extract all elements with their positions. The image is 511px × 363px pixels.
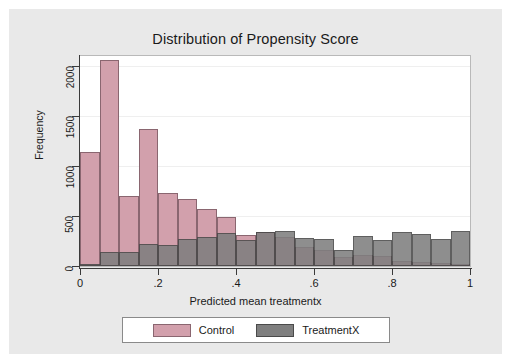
bar-treatmentx-11 xyxy=(295,238,315,267)
x-tick-label: 0 xyxy=(77,277,83,289)
x-tick-label: .8 xyxy=(387,277,396,289)
bar-treatmentx-12 xyxy=(314,239,334,267)
chart-title: Distribution of Propensity Score xyxy=(9,31,502,47)
legend-label-treatmentx: TreatmentX xyxy=(302,324,359,336)
pink-swatch-icon xyxy=(153,324,191,337)
bar-treatmentx-16 xyxy=(392,232,412,266)
bar-treatmentx-4 xyxy=(158,245,178,266)
x-tick-label: 1 xyxy=(467,277,473,289)
y-tick-label: 1500 xyxy=(65,116,76,138)
gridline xyxy=(80,116,470,117)
y-tick-label: 0 xyxy=(65,266,76,272)
legend-item-control[interactable]: Control xyxy=(153,324,234,337)
bar-treatmentx-3 xyxy=(139,244,159,266)
bar-treatmentx-2 xyxy=(119,252,139,267)
x-tick-label: .4 xyxy=(231,277,240,289)
legend-item-treatmentx[interactable]: TreatmentX xyxy=(256,324,359,337)
bars-container xyxy=(80,56,470,266)
gridline xyxy=(80,66,470,67)
x-axis-line xyxy=(79,268,472,269)
bar-treatmentx-8 xyxy=(236,240,256,266)
x-tick xyxy=(80,268,81,275)
x-tick-label: .6 xyxy=(309,277,318,289)
x-tick xyxy=(392,268,393,275)
y-tick-label: 500 xyxy=(65,216,76,233)
bar-treatmentx-13 xyxy=(334,250,354,267)
bar-treatmentx-14 xyxy=(353,236,373,267)
plot-area xyxy=(79,55,471,267)
bar-treatmentx-7 xyxy=(217,233,237,266)
x-tick xyxy=(470,268,471,275)
bar-treatmentx-0 xyxy=(80,264,100,266)
x-tick xyxy=(314,268,315,275)
bar-treatmentx-5 xyxy=(178,239,198,267)
bar-treatmentx-19 xyxy=(451,231,471,266)
bar-treatmentx-15 xyxy=(373,240,393,267)
x-axis-title: Predicted mean treatmentx xyxy=(9,295,502,307)
bar-treatmentx-1 xyxy=(100,252,120,267)
y-tick-label: 2000 xyxy=(65,66,76,88)
bar-treatmentx-6 xyxy=(197,237,217,267)
bar-treatmentx-17 xyxy=(412,234,432,267)
bar-treatmentx-9 xyxy=(256,232,276,266)
bar-treatmentx-18 xyxy=(431,239,451,267)
figure-canvas: Distribution of Propensity Score 0500100… xyxy=(9,9,502,354)
y-tick-label: 1000 xyxy=(65,166,76,188)
x-tick xyxy=(158,268,159,275)
y-axis-title: Frequency xyxy=(33,110,45,160)
y-axis-ticks: 0500100015002000 xyxy=(71,55,80,267)
legend-label-control: Control xyxy=(199,324,234,336)
bar-control-0 xyxy=(80,152,100,266)
x-tick xyxy=(236,268,237,275)
bar-control-1 xyxy=(100,60,120,266)
bar-treatmentx-10 xyxy=(275,231,295,266)
gray-swatch-icon xyxy=(256,324,294,337)
x-tick-label: .2 xyxy=(153,277,162,289)
chart-legend: Control TreatmentX xyxy=(122,317,390,343)
